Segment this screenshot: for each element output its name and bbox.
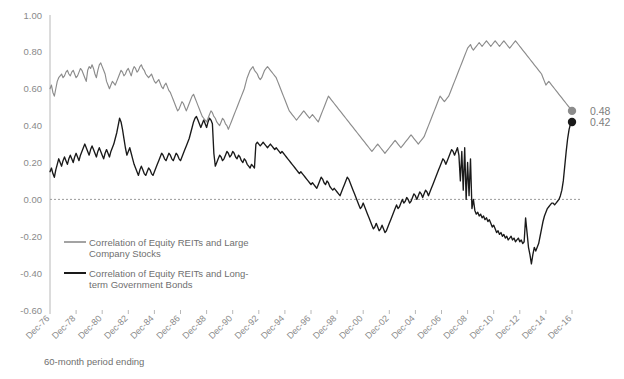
correlation-line-chart: 1.000.800.600.400.200.00-0.20-0.40-0.60D… — [0, 0, 624, 379]
x-axis-tick-label: Dec-04 — [389, 313, 417, 341]
x-axis-tick-label: Dec-84 — [128, 313, 156, 341]
y-axis-tick-label: 0.40 — [24, 120, 43, 131]
x-axis-tick-label: Dec-98 — [311, 313, 339, 341]
y-axis-tick-label: -0.40 — [20, 268, 42, 279]
y-axis-tick-label: 1.00 — [24, 10, 43, 21]
y-axis-tick-label: 0.20 — [24, 157, 43, 168]
x-axis-tick-label: Dec-90 — [207, 313, 235, 341]
x-axis-tick-label: Dec-82 — [102, 313, 130, 341]
x-axis-tick-label: Dec-06 — [415, 313, 443, 341]
x-axis-tick-label: Dec-96 — [285, 313, 313, 341]
x-axis-tick-label: Dec-88 — [180, 313, 208, 341]
x-axis-tick-label: Dec-86 — [154, 313, 182, 341]
x-axis-tick-label: Dec-12 — [494, 313, 522, 341]
series-end-value-label: 0.42 — [590, 116, 611, 128]
x-axis-tick-label: Dec-14 — [520, 313, 548, 341]
x-axis-tick-label: Dec-92 — [233, 313, 261, 341]
y-axis-tick-label: -0.60 — [20, 305, 42, 316]
series-line-large-company-stocks — [50, 41, 572, 153]
legend-label-continued: term Government Bonds — [89, 279, 193, 290]
series-endpoint-marker-longterm-gov-bonds — [568, 118, 576, 126]
chart-canvas: 1.000.800.600.400.200.00-0.20-0.40-0.60D… — [0, 0, 624, 379]
x-axis-tick-label: Dec-08 — [441, 313, 469, 341]
legend-label: Correlation of Equity REITs and Long- — [89, 268, 248, 279]
x-axis-tick-label: Dec-02 — [363, 313, 391, 341]
legend-label-continued: Company Stocks — [89, 248, 161, 259]
x-axis-title: 60-month period ending — [44, 356, 144, 367]
x-axis-tick-label: Dec-10 — [468, 313, 496, 341]
y-axis-tick-label: -0.20 — [20, 231, 42, 242]
y-axis-tick-label: 0.60 — [24, 83, 43, 94]
x-axis-tick-label: Dec-76 — [24, 313, 52, 341]
series-endpoint-marker-large-company-stocks — [568, 107, 576, 115]
legend-label: Correlation of Equity REITs and Large — [89, 237, 248, 248]
y-axis-tick-label: 0.00 — [24, 194, 43, 205]
x-axis-tick-label: Dec-94 — [259, 313, 287, 341]
x-axis-tick-label: Dec-00 — [337, 313, 365, 341]
x-axis-tick-label: Dec-78 — [50, 313, 78, 341]
x-axis-tick-label: Dec-80 — [76, 313, 104, 341]
y-axis-tick-label: 0.80 — [24, 46, 43, 57]
x-axis-tick-label: Dec-16 — [546, 313, 574, 341]
